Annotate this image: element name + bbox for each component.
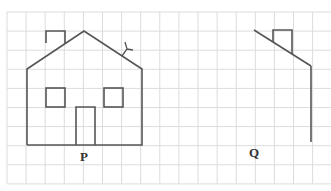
label-p: P [80,149,88,165]
grid-figure: P Q [0,0,331,191]
chimney-p [46,31,65,43]
antenna-icon [122,42,133,56]
window-left [46,88,65,107]
grid-lines [7,12,331,184]
window-right [104,88,123,107]
house-q [254,30,311,142]
drawing [0,0,331,191]
door [76,107,95,145]
label-q: Q [249,145,259,161]
